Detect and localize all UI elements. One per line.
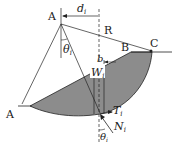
- label-crest-c: C: [150, 37, 158, 50]
- arrow-head-n: [100, 114, 105, 120]
- label-radius: R: [104, 24, 113, 37]
- label-normal: Ni: [113, 120, 126, 134]
- slope-stability-diagram: A di R B C θi b Wi Ti Ni θi A: [0, 0, 174, 145]
- label-distance: di: [77, 2, 86, 16]
- diagram-svg: A di R B C θi b Wi Ti Ni θi A: [0, 0, 174, 145]
- arrow-head-b: [104, 61, 108, 64]
- angle-arc-top: [61, 39, 67, 40]
- label-tangential: Ti: [113, 104, 123, 118]
- angle-arc-bottom: [99, 129, 105, 130]
- label-angle-bottom: θi: [100, 131, 108, 143]
- label-toe-a: A: [5, 108, 15, 121]
- label-center-a: A: [47, 10, 57, 23]
- arrow-head-left: [62, 14, 67, 18]
- label-slice-width: b: [97, 53, 103, 64]
- sliding-soil-mass: [30, 52, 152, 116]
- radius-to-toe: [22, 24, 61, 104]
- label-crest-b: B: [121, 41, 129, 54]
